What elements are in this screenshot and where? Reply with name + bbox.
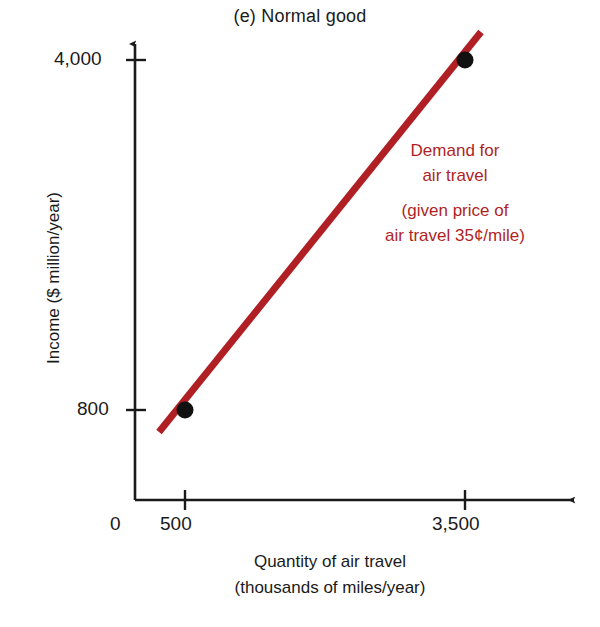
annotation-line-2: air travel xyxy=(350,163,560,188)
data-point-3500-4000 xyxy=(457,52,474,69)
x-tick-label-0: 0 xyxy=(110,513,121,535)
chart-figure: (e) Normal good 4,000 800 0 xyxy=(0,0,600,627)
x-axis-title-line-1: Quantity of air travel xyxy=(120,549,540,575)
annotation-spacer xyxy=(350,188,560,198)
annotation-line-1: Demand for xyxy=(350,138,560,163)
annotation-line-3: (given price of xyxy=(350,198,560,223)
y-tick-label-4000: 4,000 xyxy=(54,48,102,70)
demand-curve-annotation: Demand for air travel (given price of ai… xyxy=(350,138,560,248)
data-point-500-800 xyxy=(177,402,194,419)
annotation-line-4: air travel 35¢/mile) xyxy=(350,223,560,248)
x-axis-title-line-2: (thousands of miles/year) xyxy=(120,575,540,601)
plot-area xyxy=(0,0,600,627)
x-tick-label-3500: 3,500 xyxy=(432,513,480,535)
x-axis-title: Quantity of air travel (thousands of mil… xyxy=(120,549,540,601)
x-tick-label-500: 500 xyxy=(160,513,192,535)
y-axis-title: Income ($ million/year) xyxy=(44,128,64,428)
y-tick-label-800: 800 xyxy=(77,398,109,420)
